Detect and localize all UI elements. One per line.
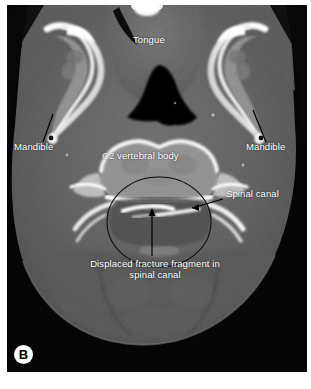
label-c2-vertebral-body: C2 vertebral body [102,150,179,161]
label-displaced-fracture-line1: Displaced fracture fragment in [90,258,220,269]
label-displaced-fracture-fragment: Displaced fracture fragment in spinal ca… [77,258,233,280]
label-mandible-right: Mandible [246,141,285,152]
panel-letter-badge: B [14,345,33,364]
label-mandible-left: Mandible [14,141,53,152]
label-displaced-fracture-line2: spinal canal [129,269,180,280]
label-spinal-canal: Spinal canal [226,188,279,199]
ct-figure-panel: Tongue Mandible Mandible C2 vertebral bo… [0,0,311,389]
label-tongue: Tongue [133,34,165,45]
